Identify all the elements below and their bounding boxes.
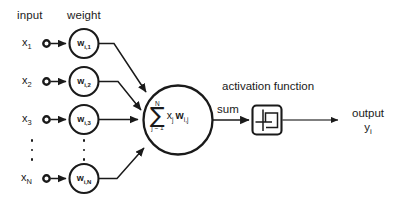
weight-symbol-N: w bbox=[77, 173, 84, 183]
weight-sub-1: i,1 bbox=[84, 44, 91, 50]
diagram-vector-layer bbox=[0, 0, 397, 204]
column-header-weight: weight bbox=[67, 9, 101, 21]
output-symbol-line: yi bbox=[343, 120, 393, 137]
input-sub-1: 1 bbox=[28, 42, 32, 51]
summation-term-w: w bbox=[176, 109, 184, 121]
input-label-1: x1 bbox=[22, 36, 32, 51]
input-terminal-3 bbox=[43, 116, 49, 122]
output-text: output bbox=[343, 106, 393, 120]
sum-caption: sum bbox=[217, 103, 239, 115]
weight-sub-3: i,3 bbox=[84, 120, 91, 126]
input-wires bbox=[51, 44, 67, 179]
activation-function-caption: activation function bbox=[222, 80, 314, 92]
summation-formula: N ∑ j = 1 xjwi,j bbox=[150, 101, 188, 132]
weight-label-3: wi,3 bbox=[70, 114, 98, 126]
output-symbol-sub: i bbox=[370, 128, 372, 137]
summation-terms: xjwi,j bbox=[167, 109, 189, 123]
input-sub-N: N bbox=[27, 177, 32, 186]
input-sub-2: 2 bbox=[28, 80, 32, 89]
neuron-diagram: input weight x1 x2 x3 xN wi,1 wi,2 wi,3 … bbox=[0, 0, 397, 204]
weight-nodes bbox=[70, 29, 99, 193]
summation-term-w-sub: i,j bbox=[184, 116, 189, 123]
summation-operator-stack: N ∑ j = 1 bbox=[150, 101, 165, 132]
weight-sum-wire-N bbox=[99, 148, 145, 179]
input-terminals bbox=[43, 40, 49, 181]
summation-lower-limit: j = 1 bbox=[151, 125, 163, 132]
input-label-2: x2 bbox=[22, 74, 32, 89]
weight-sub-N: i,N bbox=[84, 179, 92, 185]
weight-label-1: wi,1 bbox=[70, 38, 98, 50]
weight-label-2: wi,2 bbox=[70, 76, 98, 88]
input-terminal-N bbox=[43, 175, 49, 181]
output-label: output yi bbox=[343, 106, 393, 138]
summation-operator-icon: ∑ bbox=[150, 107, 165, 126]
weight-ellipsis bbox=[81, 139, 87, 161]
weight-to-sum-wires bbox=[99, 44, 147, 179]
column-header-input: input bbox=[17, 9, 42, 21]
input-label-N: xN bbox=[21, 171, 32, 186]
weight-sub-2: i,2 bbox=[84, 82, 91, 88]
input-ellipsis bbox=[29, 139, 35, 161]
input-label-3: x3 bbox=[22, 112, 32, 127]
input-terminal-1 bbox=[43, 40, 49, 46]
input-sub-3: 3 bbox=[28, 118, 32, 127]
input-terminal-2 bbox=[43, 78, 49, 84]
weight-label-N: wi,N bbox=[70, 173, 98, 185]
weight-sum-wire-2 bbox=[99, 82, 142, 111]
summation-term-x-sub: j bbox=[172, 116, 173, 123]
weight-sum-wire-1 bbox=[99, 44, 147, 93]
